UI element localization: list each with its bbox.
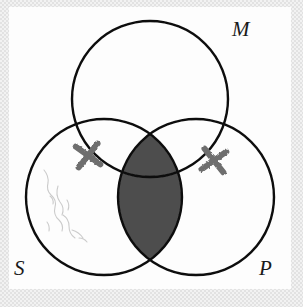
x-mark-right [202,149,227,173]
circle-label-S: S [14,256,25,281]
circle-label-P: P [259,256,272,281]
circle-label-M: M [232,17,250,42]
venn-diagram-figure: M S P [0,0,303,307]
erasure-smudge [44,170,87,242]
venn-diagram-canvas [0,0,303,307]
